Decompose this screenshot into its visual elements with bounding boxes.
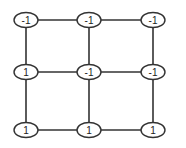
node-label: -1: [149, 15, 158, 26]
node-label: 1: [150, 125, 156, 136]
graph-node: 1: [14, 65, 38, 80]
node-label: -1: [85, 15, 94, 26]
node-label: 1: [23, 67, 29, 78]
graph-node: -1: [77, 65, 101, 80]
graph-node: -1: [77, 13, 101, 28]
node-label: 1: [23, 125, 29, 136]
node-label: -1: [22, 15, 31, 26]
graph-svg: -1-1-11-1-1111: [0, 0, 186, 148]
graph-node: -1: [141, 13, 165, 28]
graph-node: -1: [141, 65, 165, 80]
node-label: 1: [86, 125, 92, 136]
graph-node: 1: [141, 123, 165, 138]
graph-node: 1: [14, 123, 38, 138]
graph-node: -1: [14, 13, 38, 28]
graph-node: 1: [77, 123, 101, 138]
node-label: -1: [149, 67, 158, 78]
grid-graph-diagram: -1-1-11-1-1111: [0, 0, 186, 148]
node-label: -1: [85, 67, 94, 78]
